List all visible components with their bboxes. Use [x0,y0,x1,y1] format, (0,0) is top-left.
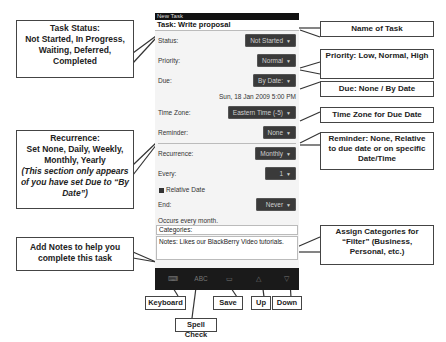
chevron-down-icon: ▼ [286,171,291,177]
recurrence-label: Recurrence: [158,150,193,157]
due-datetime[interactable]: Sun, 18 Jan 2009 5:00 PM [219,93,296,100]
callout-up: Up [251,296,271,310]
chevron-down-icon: ▼ [286,78,291,84]
reminder-label: Reminder: [158,129,188,136]
timezone-label: Time Zone: [158,109,191,116]
callout-save: Save [213,296,243,310]
callout-due: Due: None / By Date [320,81,434,97]
callout-down: Down [272,296,302,310]
window-title: New Task [155,13,299,20]
due-row: Due: By Date:▼ [155,73,299,89]
keyboard-icon[interactable]: ⌨ [164,272,182,285]
occurs-text: Occurs every month. [158,217,218,224]
categories-field[interactable]: Categories: [156,225,298,235]
callout-priority: Priority: Low, Normal, High [320,49,434,79]
recurrence-row: Recurrence: Monthly▼ [155,146,299,162]
callout-task-status: Task Status: Not Started, In Progress, W… [16,20,134,78]
checkbox-icon [159,188,164,193]
callout-name-of-task: Name of Task [320,21,434,37]
due-dropdown[interactable]: By Date:▼ [253,74,296,87]
reminder-dropdown[interactable]: None▼ [263,126,297,139]
end-label: End: [158,201,171,208]
save-icon[interactable]: ▭ [220,272,238,285]
bottom-toolbar: ⌨ ABC ▭ △ ▽ [155,268,299,290]
status-row: Status: Not Started▼ [155,33,299,49]
callout-categories: Assign Categories for “Filter” (Business… [320,225,434,265]
down-arrow-icon[interactable]: ▽ [277,272,295,285]
callout-reminder: Reminder: None, Relative to due date or … [320,132,434,170]
relative-date-checkbox[interactable]: Relative Date [159,186,205,193]
priority-label: Priority: [158,57,180,64]
chevron-down-icon: ▼ [286,110,291,116]
task-name-field[interactable]: Task: Write proposal [155,20,299,31]
chevron-down-icon: ▼ [286,130,291,136]
callout-spellcheck: Spell Check [175,318,217,332]
every-row: Every: 1▼ [155,166,299,182]
end-dropdown[interactable]: Never▼ [256,198,296,211]
callout-notes: Add Notes to help you complete this task [16,237,134,271]
chevron-down-icon: ▼ [286,58,291,64]
notes-field[interactable]: Notes: Likes our BlackBerry Video tutori… [156,236,298,260]
status-label: Status: [158,37,178,44]
priority-row: Priority: Normal▼ [155,53,299,69]
recurrence-dropdown[interactable]: Monthly▼ [255,147,296,160]
timezone-row: Time Zone: Eastern Time (-5)▼ [155,105,299,121]
chevron-down-icon: ▼ [286,151,291,157]
end-row: End: Never▼ [155,197,299,213]
reminder-row: Reminder: None▼ [155,125,299,141]
every-dropdown[interactable]: 1▼ [265,167,296,180]
spellcheck-icon[interactable]: ABC [192,272,210,285]
divider [158,143,296,144]
timezone-dropdown[interactable]: Eastern Time (-5)▼ [228,106,296,119]
callout-recurrence: Recurrence: Set None, Daily, Weekly, Mon… [16,130,134,209]
up-arrow-icon[interactable]: △ [249,272,267,285]
chevron-down-icon: ▼ [286,38,291,44]
callout-keyboard: Keyboard [145,296,186,310]
chevron-down-icon: ▼ [286,202,291,208]
due-label: Due: [158,77,172,84]
priority-dropdown[interactable]: Normal▼ [257,54,296,67]
every-label: Every: [158,170,176,177]
callout-timezone: Time Zone for Due Date [320,107,434,123]
status-dropdown[interactable]: Not Started▼ [245,34,296,47]
phone-screen: New Task Task: Write proposal Status: No… [155,13,299,269]
